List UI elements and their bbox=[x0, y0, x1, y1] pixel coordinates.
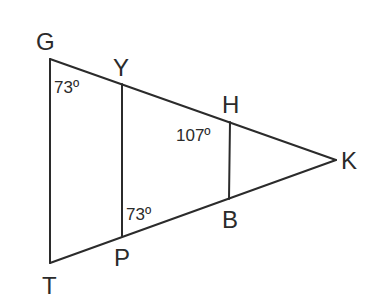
vertex-label-y: Y bbox=[113, 54, 129, 81]
vertex-label-h: H bbox=[222, 91, 239, 118]
segment-tk bbox=[50, 160, 336, 263]
vertex-label-t: T bbox=[42, 272, 57, 299]
angle-label-h: 107º bbox=[176, 126, 211, 145]
vertex-label-p: P bbox=[114, 244, 130, 271]
segment-hb bbox=[229, 122, 230, 199]
angle-label-p: 73º bbox=[126, 205, 151, 224]
triangle-diagram: G Y H K B P T 73º 107º 73º bbox=[0, 0, 380, 308]
angle-label-g: 73º bbox=[54, 78, 79, 97]
vertex-label-g: G bbox=[36, 28, 55, 55]
vertex-label-k: K bbox=[341, 147, 357, 174]
vertex-label-b: B bbox=[222, 206, 238, 233]
